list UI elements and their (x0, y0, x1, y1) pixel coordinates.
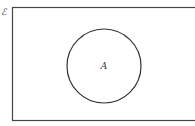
venn-diagram: ℰ A (0, 0, 195, 126)
set-a-label: A (100, 61, 108, 71)
universal-set-label: ℰ (1, 7, 8, 17)
